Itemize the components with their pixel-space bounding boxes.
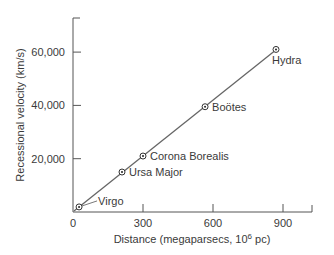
y-tick-label: 40,000	[31, 99, 65, 111]
y-tick-label: 20,000	[31, 153, 65, 165]
point-label: Virgo	[98, 195, 123, 207]
y-ticks: 20,00040,00060,000	[31, 46, 81, 165]
x-tick-label: 300	[134, 217, 152, 229]
data-point: Virgo	[76, 195, 123, 210]
x-tick-label: 900	[274, 217, 292, 229]
data-point: Boötes	[202, 101, 247, 113]
y-tick-label: 60,000	[31, 46, 65, 58]
data-points: VirgoUrsa MajorCorona BorealisBoötesHydr…	[76, 46, 302, 210]
data-point: Corona Borealis	[140, 150, 229, 162]
point-center	[121, 171, 123, 173]
point-label: Hydra	[272, 54, 302, 66]
point-center	[275, 48, 277, 50]
x-axis-label: Distance (megaparsecs, 106 pc)	[114, 232, 271, 245]
fit-line	[74, 48, 278, 211]
x-tick-label: 0	[70, 217, 76, 229]
point-label: Boötes	[212, 101, 247, 113]
point-center	[204, 106, 206, 108]
point-label: Ursa Major	[129, 166, 183, 178]
point-center	[78, 206, 80, 208]
data-point: Hydra	[272, 46, 302, 66]
fit-line-group	[74, 48, 278, 211]
x-ticks: 0300600900	[70, 204, 292, 229]
data-point: Ursa Major	[119, 166, 183, 178]
y-axis-label: Recessional velocity (km/s)	[14, 48, 26, 181]
point-center	[142, 155, 144, 157]
x-tick-label: 600	[204, 217, 222, 229]
point-label: Corona Borealis	[150, 150, 229, 162]
hubble-chart: 20,00040,00060,000 0300600900 VirgoUrsa …	[0, 0, 334, 255]
